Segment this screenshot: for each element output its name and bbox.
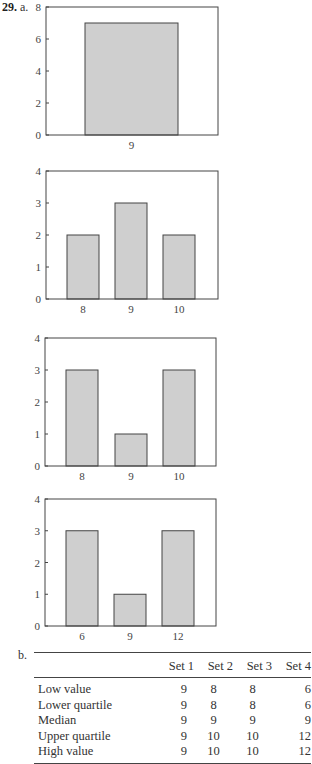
y-tick-label: 4: [35, 332, 41, 344]
x-tick-label: 9: [129, 139, 135, 151]
bar-chart-2: 891001234: [0, 160, 311, 320]
row-label: Upper quartile: [34, 729, 154, 745]
table-row: High value9101012: [34, 744, 311, 763]
cell-value: 10: [194, 744, 233, 763]
cell-value: 8: [233, 678, 272, 698]
cell-value: 9: [154, 744, 194, 763]
y-tick-label: 4: [36, 65, 42, 77]
row-label: Low value: [34, 678, 154, 698]
y-tick-label: 6: [36, 33, 42, 45]
y-tick-label: 3: [36, 197, 42, 209]
y-tick-label: 3: [35, 525, 41, 537]
cell-value: 10: [233, 729, 272, 745]
bar: [85, 23, 178, 135]
y-tick-label: 1: [35, 588, 41, 600]
cell-value: 8: [233, 698, 272, 714]
table-header-set1: Set 1: [154, 659, 194, 678]
cell-value: 12: [272, 729, 311, 745]
table-header-row: Set 1 Set 2 Set 3 Set 4: [34, 659, 311, 678]
table-header-set2: Set 2: [194, 659, 233, 678]
cell-value: 9: [154, 713, 194, 729]
bar: [114, 594, 146, 626]
cell-value: 6: [272, 698, 311, 714]
y-tick-label: 2: [35, 396, 41, 408]
row-label: Lower quartile: [34, 698, 154, 714]
quartile-table: Set 1 Set 2 Set 3 Set 4 Low value9886Low…: [34, 652, 311, 764]
bar: [162, 531, 194, 626]
y-tick-label: 0: [35, 460, 41, 472]
cell-value: 10: [233, 744, 272, 763]
part-b-label: b.: [18, 648, 27, 663]
bar-chart-3: 891001234: [0, 323, 311, 485]
cell-value: 9: [233, 713, 272, 729]
x-tick-label: 9: [128, 470, 134, 482]
cell-value: 9: [154, 729, 194, 745]
bar: [115, 203, 147, 299]
row-label: High value: [34, 744, 154, 763]
table-header-set3: Set 3: [233, 659, 272, 678]
cell-value: 9: [154, 678, 194, 698]
x-tick-label: 10: [174, 470, 186, 482]
bar-chart-1: 902468: [0, 0, 311, 160]
x-tick-label: 8: [79, 470, 85, 482]
cell-value: 12: [272, 744, 311, 763]
y-tick-label: 2: [36, 97, 42, 109]
y-tick-label: 0: [36, 293, 42, 305]
y-tick-label: 8: [36, 1, 42, 13]
row-label: Median: [34, 713, 154, 729]
y-tick-label: 0: [36, 129, 42, 141]
x-tick-label: 6: [79, 630, 85, 642]
y-tick-label: 1: [36, 261, 42, 273]
y-tick-label: 2: [35, 557, 41, 569]
y-tick-label: 1: [35, 428, 41, 440]
bar: [66, 370, 98, 466]
cell-value: 10: [194, 729, 233, 745]
table-row: Low value9886: [34, 678, 311, 698]
bar-chart-4: 691201234: [0, 485, 311, 645]
y-tick-label: 3: [35, 364, 41, 376]
x-tick-label: 9: [127, 630, 133, 642]
bar: [66, 531, 98, 626]
bar: [67, 235, 99, 299]
x-tick-label: 10: [174, 303, 186, 315]
y-tick-label: 4: [35, 493, 41, 505]
cell-value: 9: [154, 698, 194, 714]
y-tick-label: 0: [35, 620, 41, 632]
table-row: Upper quartile9101012: [34, 729, 311, 745]
cell-value: 9: [272, 713, 311, 729]
y-tick-label: 4: [36, 165, 42, 177]
bar: [163, 235, 195, 299]
x-tick-label: 9: [128, 303, 134, 315]
y-tick-label: 2: [36, 229, 42, 241]
cell-value: 8: [194, 678, 233, 698]
cell-value: 6: [272, 678, 311, 698]
bar: [115, 434, 147, 466]
cell-value: 9: [194, 713, 233, 729]
table-header-blank: [34, 659, 154, 678]
x-tick-label: 12: [173, 630, 184, 642]
table-row: Lower quartile9886: [34, 698, 311, 714]
bar: [163, 370, 195, 466]
x-tick-label: 8: [80, 303, 86, 315]
table-header-set4: Set 4: [272, 659, 311, 678]
table-row: Median9999: [34, 713, 311, 729]
cell-value: 8: [194, 698, 233, 714]
